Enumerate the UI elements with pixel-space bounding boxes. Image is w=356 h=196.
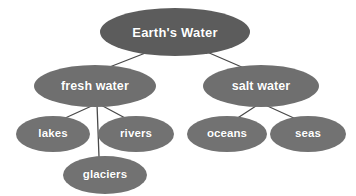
node-label-rivers: rivers [120, 128, 152, 140]
node-label-fresh-water: fresh water [61, 80, 129, 93]
node-label-lakes: lakes [38, 128, 67, 140]
node-glaciers[interactable]: glaciers [63, 156, 147, 194]
node-seas[interactable]: seas [270, 116, 346, 152]
node-label-oceans: oceans [207, 128, 247, 140]
node-lakes[interactable]: lakes [16, 116, 90, 152]
node-label-glaciers: glaciers [83, 169, 127, 181]
node-label-seas: seas [295, 128, 321, 140]
node-fresh-water[interactable]: fresh water [34, 65, 156, 107]
node-rivers[interactable]: rivers [98, 116, 174, 152]
node-label-earths-water: Earth's Water [132, 26, 217, 39]
node-oceans[interactable]: oceans [187, 116, 267, 152]
node-label-salt-water: salt water [232, 80, 291, 93]
node-earths-water[interactable]: Earth's Water [100, 8, 250, 56]
node-salt-water[interactable]: salt water [203, 65, 319, 107]
water-classification-diagram: Earth's Water fresh water salt water lak… [0, 0, 356, 196]
